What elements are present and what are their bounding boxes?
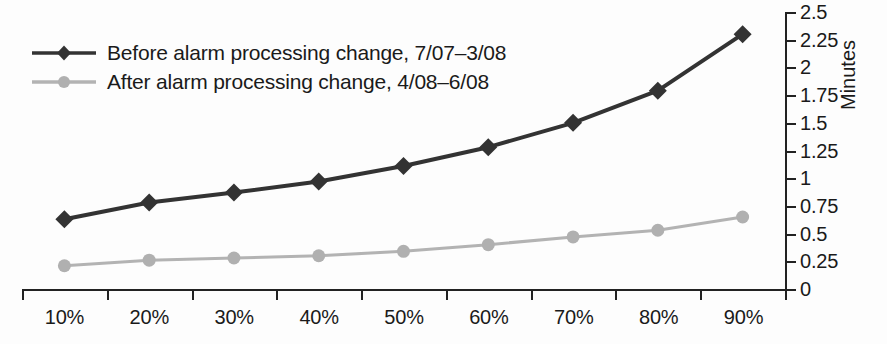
- y-axis-label: 0.5: [800, 224, 827, 244]
- y-axis-label: 1.75: [800, 85, 838, 105]
- series-line: [64, 217, 742, 266]
- y-axis-label: 1.25: [800, 141, 838, 161]
- data-point-marker: [395, 157, 413, 175]
- data-point-marker: [736, 210, 749, 223]
- legend-label-after: After alarm processing change, 4/08–6/08: [107, 70, 489, 94]
- y-axis-tick: [785, 289, 796, 291]
- x-axis-tick: [615, 289, 617, 300]
- x-axis-label: 20%: [107, 303, 192, 333]
- data-point-marker: [55, 210, 73, 228]
- legend-marker-diamond-icon: [30, 42, 98, 64]
- x-axis-label: 60%: [446, 303, 531, 333]
- x-axis-label: 10%: [22, 303, 107, 333]
- y-axis-tick: [785, 151, 796, 153]
- y-axis-label: 0: [800, 279, 811, 299]
- legend-item-after: After alarm processing change, 4/08–6/08: [30, 67, 506, 96]
- data-point-marker: [140, 194, 158, 212]
- y-axis-tick: [785, 40, 796, 42]
- data-point-marker: [479, 138, 497, 156]
- x-axis-labels: 10%20%30%40%50%60%70%80%90%: [22, 303, 786, 333]
- x-axis-tick: [276, 289, 278, 300]
- legend-label-before: Before alarm processing change, 7/07–3/0…: [107, 41, 506, 65]
- y-axis-label: 1.5: [800, 113, 827, 133]
- chart-legend: Before alarm processing change, 7/07–3/0…: [30, 38, 506, 96]
- y-axis-tick: [785, 67, 796, 69]
- data-point-marker: [482, 238, 495, 251]
- x-axis-label: 90%: [701, 303, 786, 333]
- data-point-marker: [227, 251, 240, 264]
- y-axis-title: Minutes: [838, 40, 858, 110]
- x-axis-label: 50%: [362, 303, 447, 333]
- y-axis-label: 0.75: [800, 196, 838, 216]
- y-axis-tick: [785, 178, 796, 180]
- y-axis-label: 2.5: [800, 2, 827, 22]
- data-point-marker: [651, 224, 664, 237]
- y-axis-label: 2: [800, 57, 811, 77]
- y-axis-tick: [785, 234, 796, 236]
- y-axis-tick: [785, 206, 796, 208]
- data-point-marker: [567, 230, 580, 243]
- x-axis-label: 40%: [277, 303, 362, 333]
- data-point-marker: [225, 184, 243, 202]
- data-point-marker: [143, 254, 156, 267]
- y-axis-tick: [785, 95, 796, 97]
- x-axis-label: 70%: [531, 303, 616, 333]
- x-axis-tick: [700, 289, 702, 300]
- y-axis-tick: [785, 123, 796, 125]
- x-axis-tick: [107, 289, 109, 300]
- data-point-marker: [312, 249, 325, 262]
- data-point-marker: [397, 245, 410, 258]
- y-axis-tick: [785, 261, 796, 263]
- line-chart: 10%20%30%40%50%60%70%80%90% 2.52.2521.75…: [0, 0, 887, 344]
- x-axis-tick: [446, 289, 448, 300]
- data-point-marker: [564, 114, 582, 132]
- data-point-marker: [58, 259, 71, 272]
- x-axis-tick: [531, 289, 533, 300]
- legend-marker-circle-icon: [30, 71, 98, 93]
- y-axis-label: 1: [800, 168, 811, 188]
- y-axis-label: 2.25: [800, 30, 838, 50]
- x-axis-tick: [361, 289, 363, 300]
- x-axis-label: 80%: [616, 303, 701, 333]
- y-axis-label: 0.25: [800, 251, 838, 271]
- x-axis-tick: [192, 289, 194, 300]
- x-axis-label: 30%: [192, 303, 277, 333]
- y-axis-tick: [785, 12, 796, 14]
- legend-item-before: Before alarm processing change, 7/07–3/0…: [30, 38, 506, 67]
- x-axis-tick: [22, 289, 24, 300]
- data-point-marker: [310, 173, 328, 191]
- x-axis-line: [22, 289, 786, 291]
